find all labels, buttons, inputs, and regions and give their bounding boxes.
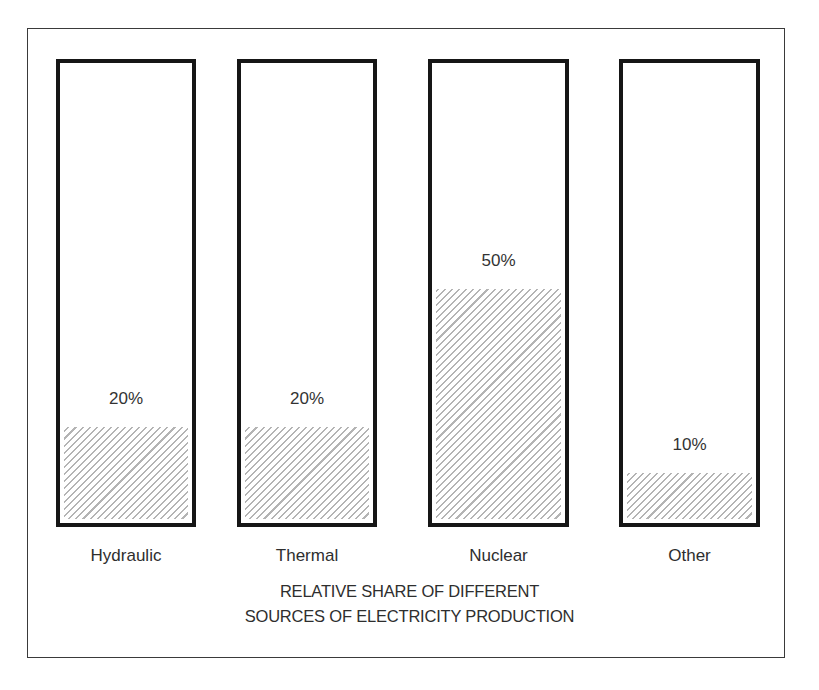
category-label-nuclear: Nuclear — [428, 546, 569, 566]
bar-other: 10% — [619, 59, 760, 527]
category-label-thermal: Thermal — [237, 546, 377, 566]
bar-fill-nuclear — [436, 289, 561, 519]
bar-thermal: 20% — [237, 59, 377, 527]
bar-nuclear: 50% — [428, 59, 569, 527]
category-label-other: Other — [619, 546, 760, 566]
value-label-thermal: 20% — [241, 389, 373, 409]
bar-fill-thermal — [245, 427, 369, 519]
value-label-hydraulic: 20% — [60, 389, 192, 409]
chart-title-line-1: RELATIVE SHARE OF DIFFERENT — [0, 582, 819, 601]
bar-fill-hydraulic — [64, 427, 188, 519]
chart-title-line-2: SOURCES OF ELECTRICITY PRODUCTION — [0, 607, 819, 626]
value-label-nuclear: 50% — [432, 251, 565, 271]
bar-fill-other — [627, 473, 752, 519]
bar-hydraulic: 20% — [56, 59, 196, 527]
value-label-other: 10% — [623, 435, 756, 455]
category-label-hydraulic: Hydraulic — [56, 546, 196, 566]
